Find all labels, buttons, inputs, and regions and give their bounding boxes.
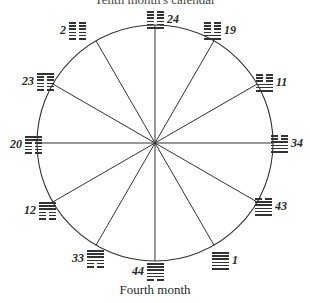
hexagram-number: 1 bbox=[232, 253, 238, 268]
hexagram-number: 2 bbox=[60, 23, 66, 38]
hexagram-icon bbox=[37, 73, 54, 91]
hexagram-calendar-diagram: Tenth month's calendar 24191134431443312… bbox=[0, 0, 310, 303]
hexagram-number: 24 bbox=[167, 12, 179, 27]
hexagram-label: 12 bbox=[24, 202, 56, 220]
spoke-line bbox=[155, 84, 257, 143]
hexagram-icon bbox=[87, 250, 104, 268]
spoke-line bbox=[96, 41, 155, 143]
hexagram-number: 20 bbox=[10, 137, 22, 152]
hexagram-label: 33 bbox=[72, 250, 104, 268]
spoke-line bbox=[53, 143, 155, 202]
spoke-line bbox=[155, 143, 214, 245]
hexagram-icon bbox=[25, 136, 42, 154]
hexagram-label: 34 bbox=[271, 135, 303, 153]
hexagram-label: 24 bbox=[147, 11, 179, 29]
hexagram-number: 44 bbox=[132, 264, 144, 279]
calendar-wheel bbox=[0, 0, 310, 303]
hexagram-label: 43 bbox=[255, 198, 287, 216]
hexagram-number: 19 bbox=[224, 23, 236, 38]
hexagram-number: 43 bbox=[275, 199, 287, 214]
hexagram-number: 33 bbox=[72, 251, 84, 266]
hexagram-icon bbox=[204, 22, 221, 40]
hexagram-icon bbox=[256, 74, 273, 92]
hexagram-icon bbox=[39, 202, 56, 220]
hexagram-label: 20 bbox=[10, 136, 42, 154]
hexagram-label: 44 bbox=[132, 263, 164, 281]
hexagram-number: 11 bbox=[276, 75, 287, 90]
spoke-line bbox=[96, 143, 155, 245]
hexagram-icon bbox=[69, 22, 86, 40]
hexagram-number: 12 bbox=[24, 203, 36, 218]
hexagram-number: 34 bbox=[291, 136, 303, 151]
hexagram-label: 19 bbox=[204, 22, 236, 40]
hexagram-icon bbox=[271, 135, 288, 153]
hexagram-number: 23 bbox=[22, 74, 34, 89]
hexagram-icon bbox=[255, 198, 272, 216]
bottom-caption: Fourth month bbox=[0, 282, 310, 298]
hexagram-label: 11 bbox=[256, 74, 287, 92]
spoke-line bbox=[155, 41, 214, 143]
hexagram-icon bbox=[147, 11, 164, 29]
spoke-line bbox=[155, 143, 257, 202]
hexagram-label: 1 bbox=[212, 252, 238, 270]
hexagram-icon bbox=[147, 263, 164, 281]
hexagram-label: 23 bbox=[22, 73, 54, 91]
hexagram-label: 2 bbox=[60, 22, 86, 40]
hexagram-icon bbox=[212, 252, 229, 270]
spoke-line bbox=[53, 84, 155, 143]
